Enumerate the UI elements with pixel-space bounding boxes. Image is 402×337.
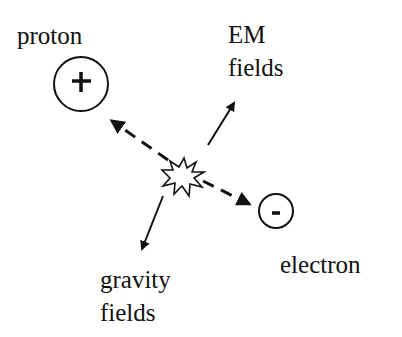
arrow-to-gravity-fields	[142, 196, 163, 249]
diagram-canvas	[0, 0, 402, 337]
arrow-to-electron	[203, 181, 249, 204]
electron-particle-icon	[259, 194, 293, 228]
arrow-to-em-fields	[208, 103, 234, 145]
proton-particle-icon	[54, 57, 108, 111]
interaction-burst-icon	[162, 158, 204, 196]
arrow-to-proton	[112, 121, 168, 160]
